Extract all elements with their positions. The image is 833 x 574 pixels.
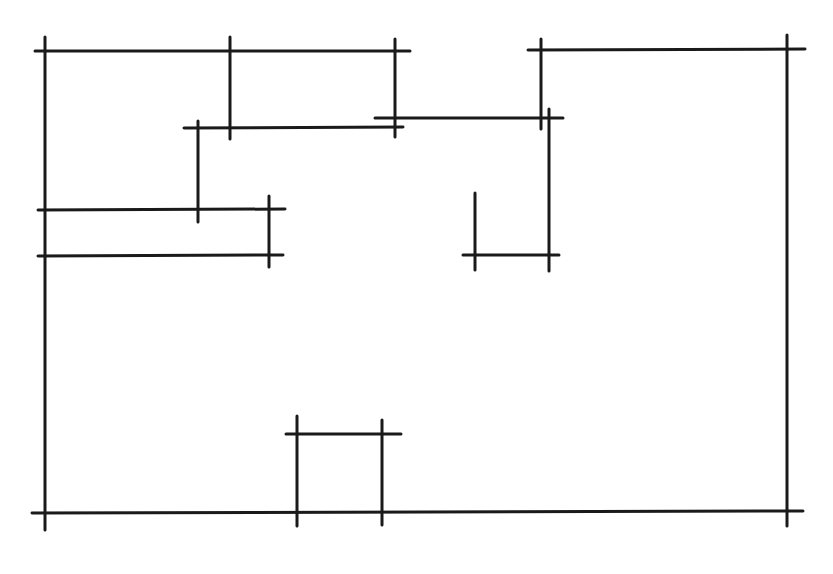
vertical-lines — [45, 35, 787, 530]
line-segment-h-upper-mid-left — [184, 127, 403, 128]
horizontal-lines — [32, 49, 805, 513]
line-segment-h-left-2 — [38, 255, 283, 256]
line-segment-h-top-right — [528, 49, 805, 50]
line-segment-h-bottom — [32, 511, 803, 513]
line-segment-h-left-1 — [38, 209, 285, 210]
line-diagram — [0, 0, 833, 574]
